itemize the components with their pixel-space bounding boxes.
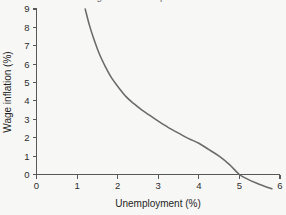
y-tick-label-8: 8 bbox=[24, 22, 29, 33]
y-tick-label-5: 5 bbox=[24, 77, 29, 88]
x-tick-label-4: 4 bbox=[196, 180, 201, 191]
phillips-curve-line bbox=[85, 9, 272, 189]
y-tick-label-1: 1 bbox=[24, 151, 29, 162]
y-tick-label-0: 0 bbox=[24, 169, 29, 180]
chart-canvas: 0123456789 0123456 Unemployment (%) Wage… bbox=[0, 0, 286, 215]
y-tick-label-9: 9 bbox=[24, 3, 29, 14]
x-axis-title: Unemployment (%) bbox=[115, 198, 201, 209]
x-tick-label-5: 5 bbox=[237, 180, 242, 191]
y-tick-label-2: 2 bbox=[24, 132, 29, 143]
x-tick-label-6: 6 bbox=[277, 180, 282, 191]
x-tick-label-2: 2 bbox=[115, 180, 120, 191]
x-tick-label-3: 3 bbox=[156, 180, 161, 191]
x-tick-label-1: 1 bbox=[74, 180, 79, 191]
y-tick-label-4: 4 bbox=[24, 95, 29, 106]
y-tick-label-3: 3 bbox=[24, 114, 29, 125]
y-axis-ticks bbox=[33, 9, 37, 175]
y-axis-group: 0123456789 bbox=[24, 3, 36, 180]
y-tick-label-6: 6 bbox=[24, 59, 29, 70]
x-tick-label-0: 0 bbox=[34, 180, 39, 191]
y-axis-title: Wage inflation (%) bbox=[2, 51, 13, 132]
y-axis-tick-labels: 0123456789 bbox=[24, 3, 29, 180]
phillips-curve-figure: Figure: the Phillips curve 0123456789 01… bbox=[0, 0, 286, 215]
x-axis-group: 0123456 bbox=[34, 175, 283, 192]
x-axis-tick-labels: 0123456 bbox=[34, 180, 283, 191]
y-tick-label-7: 7 bbox=[24, 40, 29, 51]
